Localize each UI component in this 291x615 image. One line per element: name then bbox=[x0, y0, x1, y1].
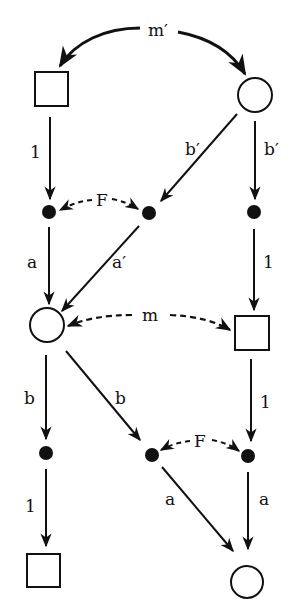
label-1-bottom-left: 1 bbox=[25, 496, 36, 516]
dot-node-middle-1 bbox=[142, 206, 156, 220]
edge-1-right-2: 1 bbox=[251, 359, 271, 441]
edge-m-prime: m′ bbox=[60, 20, 245, 74]
edge-a-diagonal: a bbox=[162, 467, 233, 551]
edge-1-right: 1 bbox=[254, 229, 274, 310]
dot-node-right-1 bbox=[247, 205, 261, 219]
label-m: m bbox=[142, 305, 158, 325]
circle-node-bottom bbox=[231, 566, 263, 598]
edge-a-prime: a′ bbox=[62, 226, 139, 311]
circle-node-top bbox=[238, 78, 272, 112]
dot-node-middle-2 bbox=[145, 448, 159, 462]
square-node-top bbox=[35, 72, 68, 106]
label-a-prime: a′ bbox=[112, 252, 126, 272]
label-m-prime: m′ bbox=[148, 20, 168, 40]
label-F-top: F bbox=[96, 190, 108, 210]
square-node-bottom bbox=[27, 554, 60, 587]
label-1-right: 1 bbox=[263, 252, 274, 272]
edge-b-diagonal: b bbox=[66, 351, 140, 440]
square-node-middle bbox=[235, 316, 269, 350]
edge-F-bottom: F bbox=[161, 431, 239, 451]
edge-a-right: a bbox=[248, 472, 269, 549]
edge-a-left: a bbox=[27, 227, 49, 304]
label-a-left: a bbox=[27, 252, 37, 272]
label-b-diagonal: b bbox=[115, 388, 126, 408]
label-F-bottom: F bbox=[194, 431, 206, 451]
label-b-prime-right: b′ bbox=[264, 139, 279, 159]
label-b-left: b bbox=[24, 388, 35, 408]
dot-node-right-2 bbox=[241, 449, 255, 463]
label-a-diagonal: a bbox=[165, 489, 175, 509]
edge-m: m bbox=[68, 305, 230, 330]
dot-node-left-2 bbox=[39, 446, 53, 460]
edge-F-top: F bbox=[60, 190, 138, 210]
label-b-prime-diagonal: b′ bbox=[185, 139, 200, 159]
edge-b-prime-right: b′ bbox=[255, 121, 279, 199]
label-1-right-2: 1 bbox=[260, 392, 271, 412]
label-1-top-left: 1 bbox=[30, 142, 41, 162]
dot-node-left-1 bbox=[42, 205, 56, 219]
commutative-diagram: m′ 1 b′ b′ F a a′ 1 bbox=[0, 0, 291, 615]
edge-1-bottom-left: 1 bbox=[25, 469, 46, 546]
edge-1-top-left: 1 bbox=[30, 117, 50, 199]
circle-node-middle bbox=[30, 308, 64, 342]
label-a-right: a bbox=[259, 489, 269, 509]
edge-b-prime-diagonal: b′ bbox=[161, 114, 237, 201]
edge-b-left: b bbox=[24, 355, 46, 439]
